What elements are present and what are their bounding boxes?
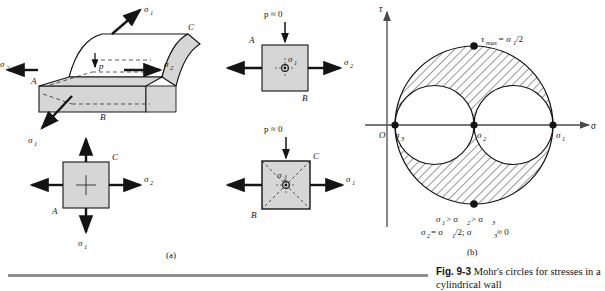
block-3d-element: p σ 1 σ 1 σ 2 σ 2 A B C	[0, 4, 200, 147]
sigma1-sub-top-right: 1	[294, 59, 297, 66]
corner-label-b-bottom-right: B	[251, 210, 257, 220]
sigma2-label-bottom-right: σ	[277, 170, 282, 180]
corner-label-c-bottom-right: C	[313, 151, 320, 161]
corner-label-a-bottom-left: A	[51, 206, 58, 216]
sigma2-label-left: σ	[0, 59, 5, 69]
point-sigma1	[549, 121, 556, 128]
pressure-note-top-right: p ≈ 0	[264, 9, 283, 19]
point-tau-max-bottom	[470, 200, 478, 208]
sigma2-axis-label: σ	[477, 130, 482, 140]
sigma1-label-top-right: σ	[288, 54, 293, 64]
sigma1-sub-top: 1	[150, 9, 153, 16]
corner-label-b-top-right: B	[302, 93, 308, 103]
sigma1-label-bottom-right: σ	[346, 174, 351, 184]
sigma2-sub-top-right: 2	[350, 62, 354, 69]
sigma2-sub-bottom-left: 2	[150, 179, 154, 186]
sigma1-sub-bottom-right: 1	[352, 179, 355, 186]
sigma1-label-bottom-left: σ	[78, 238, 83, 248]
sigma1-arrow-top	[112, 10, 140, 34]
note2-sigma2: σ	[421, 227, 426, 237]
origin-label: O	[379, 130, 386, 140]
corner-label-a: A	[30, 76, 37, 86]
sigma2-label-bottom-left: σ	[144, 174, 149, 184]
note2-approx: ≈ 0	[497, 227, 509, 237]
block-front-face	[39, 86, 146, 112]
corner-label-b: B	[100, 112, 106, 122]
tau-max-value: = σ	[498, 34, 511, 44]
point-sigma3	[391, 121, 398, 128]
note2-eq: = σ	[431, 227, 443, 237]
note1-gt1: > σ	[446, 214, 458, 224]
stress-square-bottom-left: σ 1 σ 2 A C	[32, 139, 154, 250]
panel-a-stress-elements: p σ 1 σ 1 σ 2 σ 2 A B C p ≈ 0	[0, 0, 370, 270]
tau-max-sub: max	[486, 39, 497, 46]
sigma1-sub-bottom: 1	[34, 140, 37, 147]
tau-max-value-tail: /2	[516, 34, 523, 44]
pressure-label: p	[98, 61, 104, 71]
sigma1-sub-bottom-left: 1	[84, 243, 87, 250]
note1-sigma1-sub: 1	[442, 219, 445, 226]
point-tau-max-top	[470, 42, 478, 50]
sigma1-axis-sub: 1	[562, 135, 565, 142]
note1-gt2: > σ	[471, 214, 483, 224]
stress-square-top-right: p ≈ 0 σ 1 σ 2 A B	[228, 9, 354, 103]
sigma1-label-bottom: σ	[28, 135, 33, 145]
panel-a-label: (a)	[166, 250, 176, 260]
sigma2-label-top-right: σ	[344, 57, 349, 67]
figure-caption: Fig. 9-3 Mohr's circles for stresses in …	[436, 266, 605, 291]
panel-b-mohr-circles: τ σ O σ 3 σ 2 σ 1 τ max = σ 1 /2 σ 1	[357, 2, 602, 268]
block-right-end	[146, 86, 176, 112]
pressure-note-bottom-right: p ≈ 0	[264, 124, 283, 134]
sigma1-label-top: σ	[144, 4, 149, 14]
figure-number: Fig. 9-3	[436, 266, 471, 277]
panel-b-label: (b)	[467, 247, 478, 257]
stress-square-bottom-right: p ≈ 0 σ 2 σ 1 B C	[228, 124, 355, 220]
point-sigma2	[470, 121, 477, 128]
note2-half: /2; σ	[455, 227, 472, 237]
note1-sigma1: σ	[436, 214, 441, 224]
sigma2-label-right: σ	[164, 59, 169, 69]
sigma3-axis-label: σ	[395, 130, 400, 140]
corner-label-c-bottom-left: C	[112, 152, 119, 162]
corner-label-c: C	[188, 22, 195, 32]
block-front-top-edge	[39, 77, 162, 86]
corner-label-a-top-right: A	[248, 35, 255, 45]
figure-caption-line1: Mohr's circles for	[474, 266, 548, 277]
caption-rule	[8, 274, 428, 277]
sigma1-axis-label: σ	[556, 130, 561, 140]
